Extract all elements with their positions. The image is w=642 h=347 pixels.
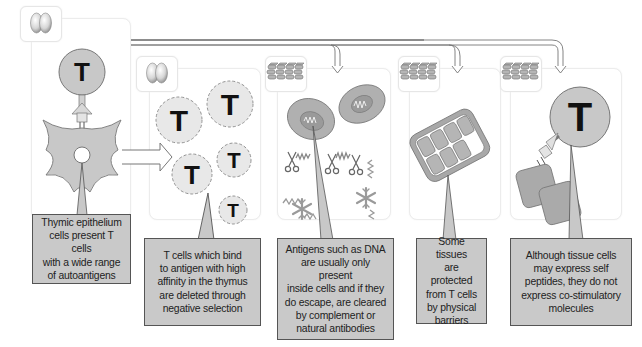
tissue-icon xyxy=(502,63,539,79)
panel-3-illustration xyxy=(282,78,392,240)
thymus-icon xyxy=(147,63,168,83)
callout-negative-selection: T cells which bind to antigen with high … xyxy=(144,238,261,326)
t-cell-label: T xyxy=(221,88,239,121)
callout-thymic-presentation: Thymic epithelium cells present T cells … xyxy=(32,214,131,284)
t-cell-label: T xyxy=(184,160,200,190)
transition-arrow xyxy=(122,143,172,171)
tissue-icon xyxy=(400,63,437,79)
t-cell-label: T xyxy=(74,57,90,87)
t-cell-label: T xyxy=(568,95,592,139)
t-cell-label: T xyxy=(170,104,188,137)
t-cell-label: T xyxy=(227,200,239,221)
panel-5-illustration xyxy=(515,87,610,240)
callout-sequestered-antigen: Antigens such as DNA are usually only pr… xyxy=(277,238,394,340)
antibody-icon xyxy=(357,188,375,208)
t-cell-label: T xyxy=(227,148,241,173)
callout-physical-barriers: Some tissues are protected from T cells … xyxy=(416,238,487,324)
panel-4-illustration xyxy=(407,106,493,185)
callout-no-costimulation: Although tissue cells may express self p… xyxy=(510,238,632,326)
complement-scissors-icon xyxy=(349,155,362,175)
tissue-icon xyxy=(267,63,304,79)
routing-arrows xyxy=(131,40,563,68)
complement-scissors-icon xyxy=(285,152,298,172)
thymus-icon xyxy=(31,13,52,33)
panel-4-pointer xyxy=(443,175,456,240)
